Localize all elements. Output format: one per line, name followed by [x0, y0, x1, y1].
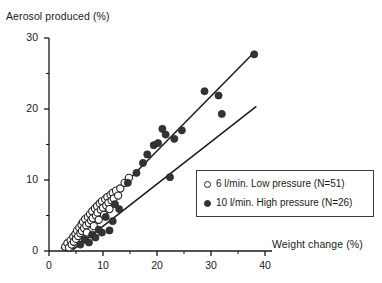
- data-point: [115, 192, 122, 199]
- y-tick-label: 10: [16, 173, 38, 185]
- y-tick-label: 20: [16, 102, 38, 114]
- data-point: [92, 234, 99, 241]
- data-point: [218, 110, 225, 117]
- open-circle-marker-icon: [204, 181, 211, 188]
- chart-legend: 6 l/min. Low pressure (N=51) 10 l/min. H…: [196, 170, 374, 217]
- legend-label-high-pressure: 10 l/min. High pressure (N=26): [216, 198, 352, 208]
- filled-circle-marker-icon: [204, 200, 211, 207]
- data-point: [251, 51, 258, 58]
- data-point: [154, 139, 161, 146]
- data-point: [139, 159, 146, 166]
- data-point: [201, 88, 208, 95]
- data-point: [166, 174, 173, 181]
- data-point: [215, 92, 222, 99]
- data-point: [178, 127, 185, 134]
- legend-label-low-pressure: 6 l/min. Low pressure (N=51): [216, 179, 345, 189]
- plot-area: [0, 0, 382, 283]
- data-point: [98, 229, 105, 236]
- data-point: [106, 227, 113, 234]
- x-tick-label: 30: [200, 259, 222, 271]
- data-point: [171, 135, 178, 142]
- scatter-chart-figure: Aerosol produced (%) Weight change (%) 0…: [0, 0, 382, 283]
- data-point: [116, 206, 123, 213]
- data-point: [109, 218, 116, 225]
- x-tick-label: 10: [92, 259, 114, 271]
- legend-entry-high-pressure: 10 l/min. High pressure (N=26): [204, 196, 352, 210]
- data-point: [133, 169, 140, 176]
- x-tick-label: 20: [146, 259, 168, 271]
- y-tick-label: 30: [16, 31, 38, 43]
- legend-entry-low-pressure: 6 l/min. Low pressure (N=51): [204, 177, 345, 191]
- data-point: [85, 239, 92, 246]
- data-point: [144, 151, 151, 158]
- x-tick-label: 40: [254, 259, 276, 271]
- x-tick-label: 0: [38, 259, 60, 271]
- data-point: [124, 179, 131, 186]
- data-point: [162, 131, 169, 138]
- data-point: [102, 213, 109, 220]
- y-tick-label: 0: [16, 244, 38, 256]
